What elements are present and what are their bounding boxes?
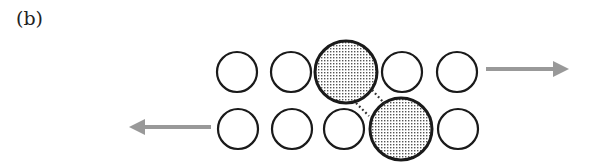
top-particle-2 bbox=[271, 52, 311, 92]
bottom-row-particles bbox=[218, 98, 478, 160]
top-large-particle bbox=[315, 41, 377, 103]
particle-shear-diagram bbox=[0, 0, 595, 163]
bottom-particle-1 bbox=[218, 109, 258, 149]
top-particle-5 bbox=[437, 52, 477, 92]
top-particle-1 bbox=[217, 52, 257, 92]
top-particle-4 bbox=[382, 52, 422, 92]
bottom-particle-2 bbox=[272, 109, 312, 149]
dotted-connector-1 bbox=[372, 90, 385, 104]
bottom-large-particle bbox=[370, 98, 432, 160]
bottom-particle-5 bbox=[438, 109, 478, 149]
top-row-particles bbox=[217, 41, 477, 103]
bottom-particle-3 bbox=[324, 109, 364, 149]
left-arrow-icon bbox=[129, 119, 211, 135]
right-arrow-icon bbox=[486, 61, 569, 77]
